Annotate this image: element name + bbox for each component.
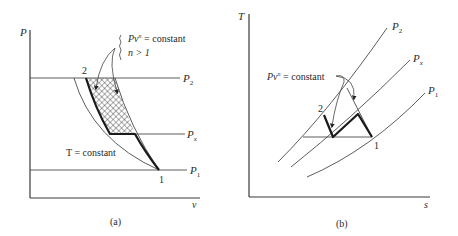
p2-label-b: P2 xyxy=(391,20,403,35)
v-axis-label: v xyxy=(192,199,197,210)
p2-label-a: P2 xyxy=(182,72,194,87)
p1-label-b: P1 xyxy=(427,84,439,99)
annotation-pointer-b-right xyxy=(336,76,354,98)
n-greater-than-1: n > 1 xyxy=(128,47,150,58)
polytropic-annotation-a: Pvn = constant xyxy=(127,33,186,44)
p1-label-a: P1 xyxy=(189,164,201,179)
t-axis-label: T xyxy=(238,10,245,22)
s-axis-label: s xyxy=(424,199,428,210)
isotherm-label: T = constant xyxy=(66,147,116,158)
figure: P v P2 Px P1 2 1 Pvn = constant n > 1 T … xyxy=(0,0,458,236)
annotation-brace xyxy=(120,35,122,60)
panel-b-ts-diagram: T s P2 Px P1 2 1 Pvn = constant (b) xyxy=(238,10,439,230)
work-saving-region xyxy=(86,78,135,134)
annotation-pointer-b-left xyxy=(332,76,344,126)
state-1-label-a: 1 xyxy=(159,174,164,185)
isobar-p1-ts xyxy=(307,93,425,177)
px-label-a: Px xyxy=(186,128,198,143)
isobar-p2-ts xyxy=(278,28,387,162)
panel-a-pv-diagram: P v P2 Px P1 2 1 Pvn = constant n > 1 T … xyxy=(19,26,201,228)
caption-b: (b) xyxy=(336,218,348,230)
p-axis-label: P xyxy=(19,26,27,38)
caption-a: (a) xyxy=(110,216,121,228)
two-stage-path-ts xyxy=(324,114,372,137)
state-1-label-b: 1 xyxy=(374,140,379,151)
state-2-label-b: 2 xyxy=(318,103,323,114)
state-2-label-a: 2 xyxy=(82,65,87,76)
px-label-b: Px xyxy=(412,52,424,67)
polytropic-annotation-b: Pvn = constant xyxy=(266,71,325,82)
